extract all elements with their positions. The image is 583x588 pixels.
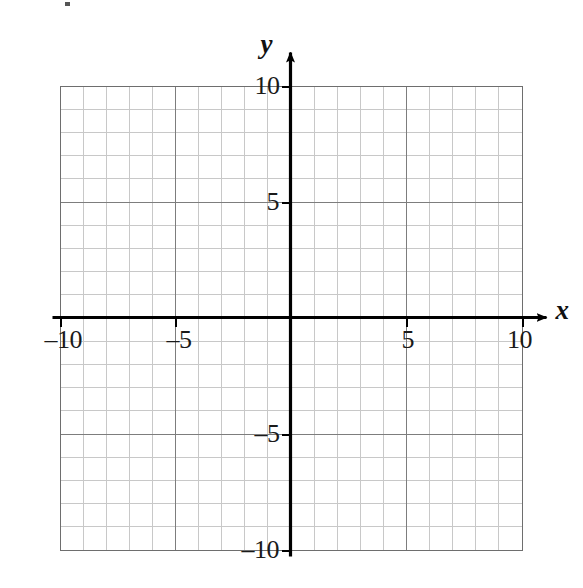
coordinate-plane-svg [0,0,583,588]
x-axis-label: x [556,297,570,324]
y-tick-label-10: 10 [255,73,280,99]
scan-artifact-speck [65,2,70,6]
y-axis-label: y [261,31,273,58]
y-tick-label-minus-5: –5 [255,421,280,447]
x-tick-label-5: 5 [402,327,415,353]
y-tick-label-minus-10: –10 [242,537,280,563]
x-tick-label-minus-10: –10 [45,327,83,353]
x-tick-label-minus-5: –5 [167,327,192,353]
x-tick-label-10: 10 [507,327,532,353]
graph-figure: 10 5 –5 –10 –10 –5 5 10 x y [0,0,583,588]
y-tick-label-5: 5 [267,189,280,215]
